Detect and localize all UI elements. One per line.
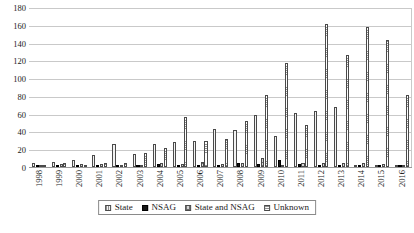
bar — [241, 163, 244, 167]
x-axis: 1998199920002001200220032004200520062007… — [29, 170, 412, 198]
x-axis-tick: 1998 — [29, 170, 49, 198]
bar — [346, 55, 349, 167]
x-axis-tick-label: 2014 — [357, 170, 366, 187]
bar — [104, 163, 107, 167]
x-axis-tick-label: 2004 — [156, 170, 165, 187]
bar — [281, 165, 284, 167]
x-axis-tick-label: 1998 — [35, 170, 44, 187]
year-group — [352, 8, 372, 167]
bar — [318, 165, 321, 167]
x-axis-tick: 2004 — [150, 170, 170, 198]
y-axis-tick-label: 140 — [13, 39, 26, 48]
year-group — [29, 8, 49, 167]
legend-item-label: Unknown — [273, 203, 309, 212]
x-axis-tick: 2003 — [130, 170, 150, 198]
bar — [382, 164, 385, 167]
bar — [342, 163, 345, 167]
bar — [257, 164, 260, 167]
x-axis-tick-label: 2005 — [176, 170, 185, 187]
bar — [213, 129, 216, 167]
year-group — [311, 8, 331, 167]
bar — [133, 154, 136, 167]
bar — [76, 165, 79, 167]
x-axis-tick: 2002 — [110, 170, 130, 198]
year-group — [231, 8, 251, 167]
bar — [334, 107, 337, 167]
x-axis-tick: 2014 — [352, 170, 372, 198]
bar — [354, 165, 357, 167]
bar — [84, 165, 87, 167]
bar — [177, 165, 180, 167]
bar — [358, 165, 361, 167]
bar — [261, 158, 264, 167]
bar — [225, 139, 228, 167]
chart-legend: StateNSAGState and NSAGUnknown — [98, 200, 316, 215]
bar — [157, 164, 160, 167]
x-axis-tick-label: 2013 — [337, 170, 346, 187]
year-group — [130, 8, 150, 167]
bar — [136, 165, 139, 167]
legend-item[interactable]: State — [105, 203, 133, 212]
bar — [43, 165, 46, 167]
bar — [285, 63, 288, 167]
x-axis-tick-label: 1999 — [55, 170, 64, 187]
y-axis-tick-label: 160 — [13, 22, 26, 31]
x-axis-tick: 2010 — [271, 170, 291, 198]
bar — [274, 136, 277, 167]
bar — [153, 144, 156, 167]
bar — [294, 113, 297, 167]
bar — [120, 165, 123, 167]
year-group — [331, 8, 351, 167]
bar — [36, 165, 39, 167]
bar — [221, 164, 224, 167]
legend-item[interactable]: Unknown — [264, 203, 309, 212]
year-group — [170, 8, 190, 167]
bar — [52, 162, 55, 167]
bar — [378, 165, 381, 167]
bar-chart: 180160140120100806040200 199819992000200… — [0, 0, 414, 233]
y-axis-tick-label: 20 — [18, 146, 27, 155]
bar — [278, 160, 281, 167]
bar — [395, 165, 398, 167]
x-axis-tick-label: 2011 — [297, 170, 306, 187]
bar — [254, 115, 257, 167]
year-group — [291, 8, 311, 167]
x-axis-tick-label: 2009 — [257, 170, 266, 187]
x-axis-tick: 2008 — [231, 170, 251, 198]
x-axis-tick-label: 2016 — [398, 170, 407, 187]
bar — [144, 153, 147, 167]
x-axis-tick-label: 2006 — [196, 170, 205, 187]
x-axis-tick: 2011 — [291, 170, 311, 198]
y-axis-tick-label: 180 — [13, 4, 26, 13]
x-axis-tick: 2012 — [311, 170, 331, 198]
x-axis-tick-label: 2015 — [377, 170, 386, 187]
y-axis-tick-label: 120 — [13, 57, 26, 66]
year-group — [210, 8, 230, 167]
legend-swatch-icon — [105, 205, 111, 211]
legend-item-label: State and NSAG — [195, 203, 255, 212]
bar — [197, 165, 200, 167]
bar — [56, 165, 59, 167]
bars-container — [29, 8, 412, 167]
x-axis-tick: 2009 — [251, 170, 271, 198]
x-axis-tick-label: 2002 — [115, 170, 124, 187]
x-axis-tick-label: 2003 — [136, 170, 145, 187]
legend-item[interactable]: State and NSAG — [185, 203, 255, 212]
year-group — [251, 8, 271, 167]
bar — [92, 155, 95, 167]
legend-item[interactable]: NSAG — [142, 203, 176, 212]
x-axis-tick-label: 2001 — [95, 170, 104, 187]
y-axis: 180160140120100806040200 — [0, 8, 26, 168]
bar — [298, 164, 301, 167]
year-group — [392, 8, 412, 167]
y-axis-tick-label: 100 — [13, 75, 26, 84]
bar — [217, 165, 220, 167]
legend-swatch-icon — [185, 205, 191, 211]
bar — [181, 164, 184, 167]
y-axis-tick-label: 0 — [22, 164, 26, 173]
y-axis-tick-label: 80 — [18, 93, 27, 102]
year-group — [69, 8, 89, 167]
x-axis-tick: 2015 — [372, 170, 392, 198]
legend-swatch-icon — [264, 205, 270, 211]
year-group — [150, 8, 170, 167]
